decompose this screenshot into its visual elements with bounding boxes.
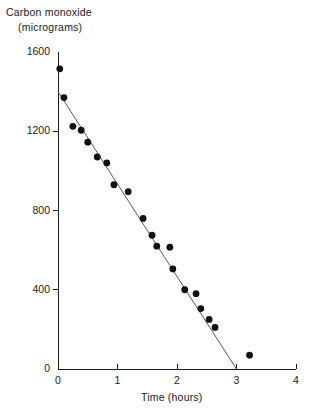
data-point (212, 324, 219, 331)
axis-lines (58, 52, 296, 369)
data-points (56, 65, 253, 358)
data-point (197, 305, 204, 312)
trendline (58, 92, 237, 369)
data-point (56, 65, 63, 72)
x-tick-label: 0 (50, 374, 66, 386)
y-tick-label: 1200 (16, 124, 50, 136)
data-point (69, 123, 76, 130)
tick-marks (53, 131, 296, 369)
trendline-segment (58, 92, 237, 369)
y-tick-label: 1600 (16, 45, 50, 57)
data-point (206, 316, 213, 323)
data-point (181, 286, 188, 293)
x-tick-label: 1 (110, 374, 126, 386)
y-tick-label: 800 (16, 204, 50, 216)
data-point (111, 181, 118, 188)
y-tick-label: 400 (16, 283, 50, 295)
data-point (78, 127, 85, 134)
x-tick-label: 2 (169, 374, 185, 386)
chart-container: Carbon monoxide (micrograms) Time (hours… (0, 0, 317, 413)
data-point (166, 244, 173, 251)
data-point (94, 154, 101, 161)
data-point (140, 215, 147, 222)
x-tick-label: 4 (288, 374, 304, 386)
x-tick-label: 3 (229, 374, 245, 386)
data-point (149, 232, 156, 239)
data-point (246, 352, 253, 359)
y-tick-label: 0 (16, 362, 50, 374)
data-point (61, 94, 68, 101)
data-point (103, 160, 110, 167)
data-point (84, 139, 91, 146)
data-point (193, 290, 200, 297)
data-point (125, 188, 132, 195)
data-point (169, 266, 176, 273)
data-point (153, 243, 160, 250)
